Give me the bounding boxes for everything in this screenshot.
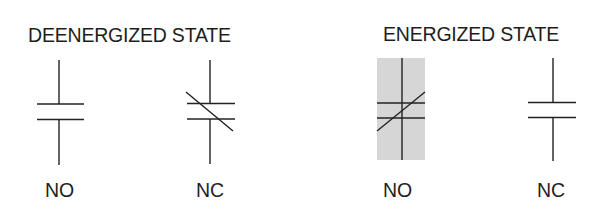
energized-no-contact-symbol bbox=[377, 58, 425, 160]
deenergized-no-label: NO bbox=[45, 181, 74, 201]
deenergized-nc-contact-symbol bbox=[186, 60, 235, 164]
relay-contact-diagram bbox=[0, 0, 604, 218]
deenergized-nc-label: NC bbox=[196, 181, 224, 201]
deenergized-no-contact-symbol bbox=[37, 60, 84, 165]
highlight-shading bbox=[377, 58, 425, 160]
energized-no-label: NO bbox=[383, 181, 412, 201]
energized-nc-contact-symbol bbox=[528, 58, 576, 161]
energized-nc-label: NC bbox=[537, 181, 565, 201]
